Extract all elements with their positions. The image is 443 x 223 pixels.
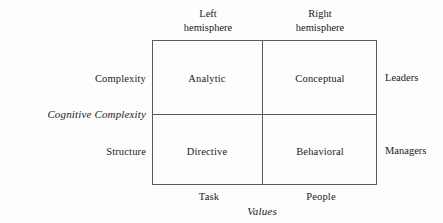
- x-axis-label: Values: [247, 205, 277, 218]
- matrix-cell-behavioral: Behavioral: [265, 146, 375, 157]
- row-label-complexity: Complexity: [95, 72, 146, 85]
- row-label-managers: Managers: [385, 145, 426, 156]
- column-header-left-hemisphere: Left hemisphere: [153, 7, 263, 34]
- row-label-structure: Structure: [106, 145, 146, 158]
- matrix-cell-analytic: Analytic: [152, 73, 262, 84]
- column-header-right-hemisphere-line1: Right: [265, 7, 375, 21]
- column-header-right-hemisphere-line2: hemisphere: [265, 21, 375, 35]
- column-header-left-hemisphere-line2: hemisphere: [153, 21, 263, 35]
- column-footer-people: People: [306, 190, 335, 203]
- column-footer-task: Task: [199, 190, 219, 203]
- row-label-leaders: Leaders: [385, 72, 418, 83]
- column-header-right-hemisphere: Right hemisphere: [265, 7, 375, 34]
- matrix-horizontal-divider: [152, 114, 377, 115]
- matrix-cell-directive: Directive: [152, 146, 262, 157]
- cognitive-complexity-matrix-diagram: Left hemisphere Right hemisphere Analyti…: [0, 0, 443, 223]
- y-axis-label: Cognitive Complexity: [47, 108, 146, 121]
- matrix-vertical-divider: [262, 40, 263, 185]
- matrix-outer-border: [152, 40, 377, 185]
- column-header-left-hemisphere-line1: Left: [153, 7, 263, 21]
- matrix-cell-conceptual: Conceptual: [265, 73, 375, 84]
